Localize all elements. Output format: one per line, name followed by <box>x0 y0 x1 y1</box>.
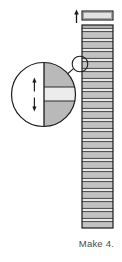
figure-canvas <box>0 0 122 262</box>
pieced-strip-unit <box>82 25 113 228</box>
cut-segment-piece <box>82 11 113 20</box>
strip-bands <box>82 25 113 228</box>
diagram-svg <box>0 0 122 262</box>
detail-light-fabric <box>44 87 78 101</box>
figure-caption: Make 4. <box>0 238 114 249</box>
